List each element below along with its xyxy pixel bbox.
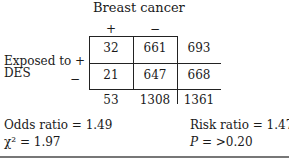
p-value: P = >0.20: [190, 135, 253, 149]
column-group-label: Breast cancer: [93, 0, 185, 15]
grid-line: [89, 63, 221, 64]
table-cell: 32: [89, 41, 133, 55]
row-header-negative: −: [70, 72, 80, 86]
column-total: 1308: [133, 93, 177, 107]
bottom-rule: [0, 156, 289, 158]
odds-ratio: Odds ratio = 1.49: [4, 118, 112, 132]
row-total: 668: [177, 68, 221, 82]
row-total: 693: [177, 41, 221, 55]
risk-ratio: Risk ratio = 1.47: [190, 118, 289, 132]
table-cell: 647: [133, 68, 177, 82]
column-header-positive: +: [106, 22, 116, 36]
chi-square: χ² = 1.97: [4, 135, 60, 149]
row-group-label-line2: DES: [4, 66, 31, 80]
table-cell: 21: [89, 68, 133, 82]
column-header-negative: −: [150, 22, 160, 36]
row-header-positive: +: [75, 54, 85, 68]
grid-line: [89, 89, 221, 90]
column-total: 53: [89, 93, 133, 107]
table-cell: 661: [133, 41, 177, 55]
grand-total: 1361: [177, 93, 221, 107]
